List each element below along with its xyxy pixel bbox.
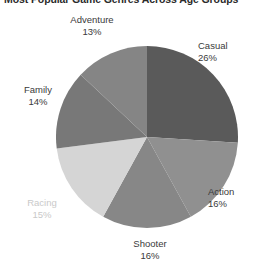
slice-label-racing: Racing 15% — [18, 197, 66, 220]
slice-label-shooter: Shooter 16% — [120, 238, 180, 261]
slice-label-action-value: 16% — [208, 198, 234, 210]
slice-label-racing-value: 15% — [18, 209, 66, 221]
slice-label-family-name: Family — [11, 84, 65, 96]
slice-label-casual-name: Casual — [198, 40, 228, 52]
slice-label-adventure-name: Adventure — [54, 14, 130, 26]
slice-label-casual-value: 26% — [198, 52, 228, 64]
slice-label-casual: Casual 26% — [198, 40, 228, 63]
slice-label-shooter-name: Shooter — [120, 238, 180, 250]
slice-label-action-name: Action — [208, 186, 234, 198]
slice-label-racing-name: Racing — [18, 197, 66, 209]
slice-label-family: Family 14% — [11, 84, 65, 107]
slice-label-action: Action 16% — [208, 186, 234, 209]
pie-chart-figure: Most Popular Game Genres Across Age Grou… — [0, 0, 276, 273]
chart-title: Most Popular Game Genres Across Age Grou… — [4, 0, 276, 7]
slice-label-family-value: 14% — [11, 96, 65, 108]
slice-label-adventure-value: 13% — [54, 26, 130, 38]
slice-label-shooter-value: 16% — [120, 250, 180, 262]
slice-label-adventure: Adventure 13% — [54, 14, 130, 37]
